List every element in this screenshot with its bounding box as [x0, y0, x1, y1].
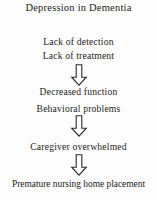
flow-step-lack-of-treatment: Lack of treatment: [0, 51, 157, 61]
hollow-down-arrow-icon-2: [70, 115, 88, 137]
flow-step-caregiver-overwhelmed: Caregiver overwhelmed: [0, 142, 157, 152]
hollow-down-arrow-icon-3: [70, 154, 88, 176]
hollow-down-arrow-icon-1: [70, 64, 88, 86]
flow-step-decreased-function: Decreased function: [0, 87, 157, 97]
flowchart-diagram: Depression in Dementia Lack of detection…: [0, 0, 157, 200]
flow-step-lack-of-detection: Lack of detection: [0, 37, 157, 47]
diagram-title: Depression in Dementia: [0, 3, 157, 14]
flow-step-premature-nursing-home-placement: Premature nursing home placement: [0, 180, 157, 189]
flow-step-behavioral-problems: Behavioral problems: [0, 104, 157, 114]
